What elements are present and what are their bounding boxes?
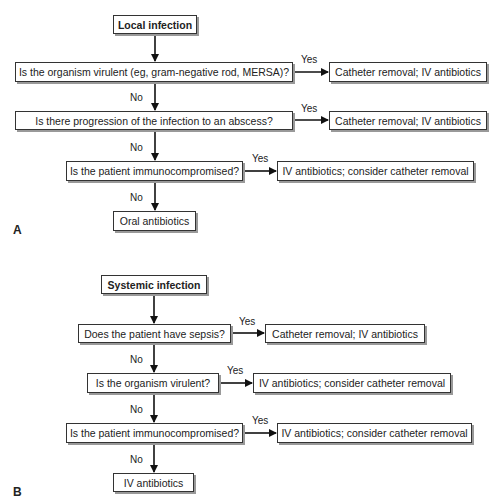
result-box-b1: Catheter removal; IV antibiotics — [265, 324, 425, 343]
result-box-b3: IV antibiotics; consider catheter remova… — [277, 423, 472, 443]
question-box-b3: Is the patient immunocompromised? — [66, 423, 243, 443]
panel-label-a: A — [13, 223, 22, 237]
yes-label-b2: Yes — [227, 365, 243, 376]
result-box-a2: Catheter removal; IV antibiotics — [329, 111, 487, 130]
result-box-a1: Catheter removal; IV antibiotics — [329, 62, 487, 82]
end-box-iv-antibiotics: IV antibiotics — [113, 473, 194, 492]
end-box-oral-antibiotics: Oral antibiotics — [113, 211, 196, 231]
question-box-b2: Is the organism virulent? — [87, 373, 219, 393]
no-label-a1: No — [130, 92, 143, 103]
result-box-b2: IV antibiotics; consider catheter remova… — [253, 373, 451, 393]
start-box-systemic-infection: Systemic infection — [101, 275, 207, 294]
question-box-a2: Is there progression of the infection to… — [15, 111, 293, 130]
yes-label-a3: Yes — [252, 153, 268, 164]
yes-label-a1: Yes — [301, 54, 317, 65]
flowchart-canvas: Local infection Is the organism virulent… — [0, 0, 494, 503]
panel-label-b: B — [13, 485, 22, 499]
yes-label-b1: Yes — [239, 316, 255, 327]
no-label-b2: No — [130, 404, 143, 415]
start-box-local-infection: Local infection — [113, 15, 197, 34]
yes-label-b3: Yes — [252, 415, 268, 426]
result-box-a3: IV antibiotics; consider catheter remova… — [277, 161, 474, 181]
no-label-b1: No — [130, 354, 143, 365]
question-box-a3: Is the patient immunocompromised? — [66, 161, 243, 181]
no-label-a2: No — [130, 142, 143, 153]
no-label-b3: No — [130, 454, 143, 465]
question-box-b1: Does the patient have sepsis? — [78, 324, 231, 343]
yes-label-a2: Yes — [301, 103, 317, 114]
no-label-a3: No — [130, 192, 143, 203]
question-box-a1: Is the organism virulent (eg, gram-negat… — [15, 62, 293, 82]
